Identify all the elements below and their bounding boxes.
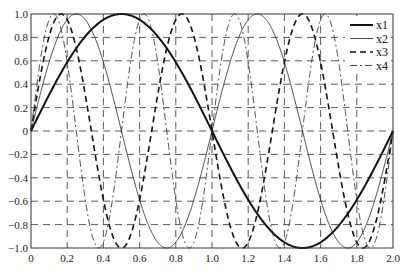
x-tick-label: 1.4: [278, 252, 292, 264]
legend: x1 x2 x3 x4: [345, 16, 391, 73]
legend-label-x4: x4: [376, 59, 388, 73]
x-tick-label: 2.0: [386, 252, 400, 264]
y-tick-label: −0.4: [8, 172, 28, 184]
y-tick-label: 0: [23, 125, 29, 137]
legend-label-x3: x3: [376, 45, 388, 59]
x-tick-label: 1.0: [205, 252, 219, 264]
x-tick-label: 1.2: [241, 252, 255, 264]
line-chart: 1.00.80.60.40.20−0.2−0.4−0.6−0.8−1.0 00.…: [0, 0, 410, 271]
y-tick-label: −1.0: [8, 242, 28, 254]
y-tick-label: 0.2: [14, 102, 28, 114]
x-tick-label: 1.6: [314, 252, 328, 264]
x-axis-ticks: 00.20.40.60.81.01.21.41.61.82.0: [28, 252, 400, 264]
legend-label-x1: x1: [376, 18, 388, 32]
y-tick-label: 0.6: [14, 55, 28, 67]
y-tick-label: −0.2: [8, 148, 28, 160]
y-axis-ticks: 1.00.80.60.40.20−0.2−0.4−0.6−0.8−1.0: [8, 8, 28, 254]
y-tick-label: −0.8: [8, 219, 28, 231]
x-tick-label: 0.4: [97, 252, 111, 264]
x-tick-label: 0.6: [133, 252, 147, 264]
x-tick-label: 1.8: [350, 252, 364, 264]
x-tick-label: 0.2: [60, 252, 74, 264]
y-tick-label: 1.0: [14, 8, 28, 20]
y-tick-label: 0.4: [14, 78, 28, 90]
y-tick-label: −0.6: [8, 195, 28, 207]
legend-label-x2: x2: [376, 32, 388, 46]
x-tick-label: 0: [28, 252, 34, 264]
x-tick-label: 0.8: [169, 252, 183, 264]
y-tick-label: 0.8: [14, 31, 28, 43]
